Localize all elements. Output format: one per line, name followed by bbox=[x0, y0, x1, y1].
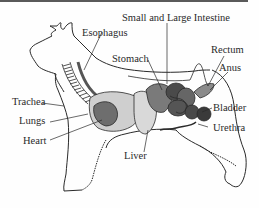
label-esophagus: Esophagus bbox=[82, 28, 128, 39]
label-heart: Heart bbox=[23, 136, 46, 147]
intestine-loop bbox=[128, 64, 208, 86]
trachea bbox=[62, 62, 94, 104]
diagram-canvas: Small and Large Intestine Esophagus Stom… bbox=[0, 0, 259, 208]
label-trachea: Trachea bbox=[12, 97, 45, 108]
label-intestine: Small and Large Intestine bbox=[122, 13, 230, 24]
label-liver: Liver bbox=[124, 151, 147, 162]
label-urethra: Urethra bbox=[213, 123, 245, 134]
label-rectum: Rectum bbox=[211, 45, 244, 56]
label-anus: Anus bbox=[219, 63, 241, 74]
label-bladder: Bladder bbox=[213, 103, 246, 114]
urethra bbox=[160, 122, 196, 130]
label-stomach: Stomach bbox=[112, 54, 149, 65]
rectum bbox=[194, 83, 214, 98]
label-lungs: Lungs bbox=[19, 116, 45, 127]
